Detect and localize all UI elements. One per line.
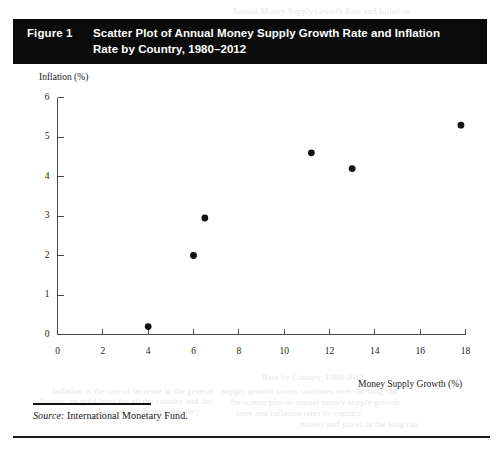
figure-number: Figure 1 [27,25,93,41]
figure-header-bar: Figure 1 Scatter Plot of Annual Money Su… [13,19,487,64]
y-tick-label: 0 [36,329,50,339]
data-point [201,215,208,222]
figure-title-line-2: Rate by Country, 1980–2012 [93,41,440,57]
x-tick-label: 2 [95,346,111,356]
y-tick-label: 5 [36,131,50,141]
y-tick-label: 4 [36,171,50,181]
source-divider-rule [33,403,151,405]
data-point [458,122,465,129]
data-point [308,149,315,156]
y-tick-label: 6 [36,92,50,102]
x-tick-label: 8 [231,346,247,356]
x-tick-label: 14 [367,346,383,356]
x-axis-ticks [103,329,466,335]
x-tick-label: 12 [322,346,338,356]
x-tick-label: 0 [50,346,66,356]
axis-lines [58,98,466,335]
x-tick-label: 10 [276,346,292,356]
scatter-chart: Inflation (%) Money Supply Growth (%) 01… [0,64,503,394]
ghost-text: Annual Money Supply Growth Rate and Infl… [232,6,410,16]
figure-title-line-1: Scatter Plot of Annual Money Supply Grow… [93,25,440,41]
source-value: International Monetary Fund. [67,410,188,421]
x-tick-label: 18 [458,346,474,356]
x-tick-label: 16 [412,346,428,356]
bottom-divider-rule [13,436,490,438]
y-tick-label: 2 [36,250,50,260]
y-tick-label: 3 [36,210,50,220]
y-axis-ticks [58,98,64,296]
data-point [349,165,356,172]
y-tick-label: 1 [36,289,50,299]
source-block: Source: International Monetary Fund. [33,403,489,421]
data-series [145,122,465,330]
data-point [190,252,197,259]
data-point [145,323,152,330]
x-tick-label: 4 [140,346,156,356]
source-label: Source: [33,410,64,421]
x-tick-label: 6 [186,346,202,356]
source-note: Source: International Monetary Fund. [33,410,489,421]
plot-area [0,64,503,394]
